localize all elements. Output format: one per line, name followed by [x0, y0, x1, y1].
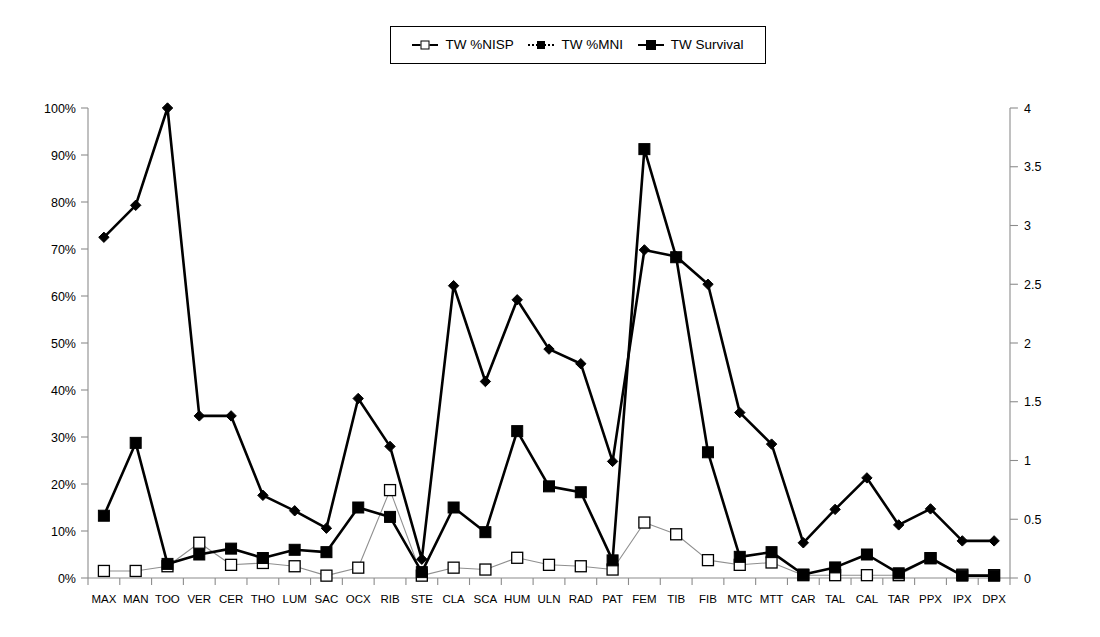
- data-point[interactable]: [130, 437, 141, 448]
- data-point[interactable]: [226, 411, 236, 421]
- category-label: RAD: [569, 593, 593, 605]
- data-point[interactable]: [512, 426, 523, 437]
- category-label: MAN: [123, 593, 149, 605]
- data-point[interactable]: [671, 529, 682, 540]
- data-point[interactable]: [289, 544, 300, 555]
- category-label: LUM: [283, 593, 307, 605]
- left-axis-tick-label: 0%: [58, 572, 76, 586]
- data-point[interactable]: [480, 376, 490, 386]
- data-point[interactable]: [226, 543, 237, 554]
- category-label: ULN: [537, 593, 560, 605]
- data-point[interactable]: [321, 547, 332, 558]
- data-point[interactable]: [290, 506, 300, 516]
- category-label: CAL: [856, 593, 879, 605]
- category-labels: MAXMANTOOVERCERTHOLUMSACOCXRIBSTECLASCAH…: [91, 593, 1006, 605]
- category-label: FEM: [632, 593, 656, 605]
- category-label: TIB: [667, 593, 685, 605]
- data-point[interactable]: [448, 281, 458, 291]
- right-axis: 00.511.522.533.54: [1010, 102, 1041, 586]
- data-point[interactable]: [353, 562, 364, 573]
- category-label: HUM: [504, 593, 530, 605]
- data-point[interactable]: [766, 547, 777, 558]
- data-point[interactable]: [162, 558, 173, 569]
- data-point[interactable]: [639, 517, 650, 528]
- data-point[interactable]: [607, 456, 617, 466]
- data-point[interactable]: [194, 411, 204, 421]
- left-axis-tick-label: 20%: [51, 478, 76, 492]
- data-point[interactable]: [98, 565, 109, 576]
- data-point[interactable]: [607, 555, 618, 566]
- data-point[interactable]: [734, 551, 745, 562]
- data-point[interactable]: [544, 559, 555, 570]
- left-axis-tick-label: 80%: [51, 196, 76, 210]
- data-point[interactable]: [194, 537, 205, 548]
- category-label: SCA: [474, 593, 498, 605]
- data-point[interactable]: [162, 103, 172, 113]
- data-point[interactable]: [702, 555, 713, 566]
- category-label: PAT: [602, 593, 623, 605]
- data-point[interactable]: [576, 359, 586, 369]
- data-point[interactable]: [957, 570, 968, 581]
- data-point[interactable]: [575, 487, 586, 498]
- left-axis-tick-label: 10%: [51, 525, 76, 539]
- data-point[interactable]: [353, 502, 364, 513]
- data-point[interactable]: [448, 562, 459, 573]
- data-point[interactable]: [798, 569, 809, 580]
- category-label: IPX: [953, 593, 972, 605]
- category-label: MTC: [727, 593, 752, 605]
- data-point[interactable]: [194, 549, 205, 560]
- left-axis-tick-label: 50%: [51, 337, 76, 351]
- data-point[interactable]: [766, 557, 777, 568]
- category-label: CAR: [791, 593, 815, 605]
- data-point[interactable]: [702, 447, 713, 458]
- category-label: FIB: [699, 593, 717, 605]
- data-point[interactable]: [544, 481, 555, 492]
- left-axis-tick-label: 40%: [51, 384, 76, 398]
- category-label: TAR: [888, 593, 910, 605]
- data-point[interactable]: [321, 523, 331, 533]
- left-axis-tick-label: 70%: [51, 243, 76, 257]
- data-point[interactable]: [989, 536, 999, 546]
- left-axis: 0%10%20%30%40%50%60%70%80%90%100%: [44, 102, 88, 586]
- right-axis-tick-label: 1.5: [1024, 395, 1041, 409]
- category-label: CER: [219, 593, 243, 605]
- data-point[interactable]: [321, 570, 332, 581]
- data-point[interactable]: [385, 511, 396, 522]
- series-tw-survival: [98, 144, 999, 582]
- right-axis-tick-label: 1: [1024, 454, 1031, 468]
- data-point[interactable]: [130, 565, 141, 576]
- category-label: SAC: [315, 593, 339, 605]
- category-label: OCX: [346, 593, 371, 605]
- left-axis-tick-label: 60%: [51, 290, 76, 304]
- left-axis-tick-label: 30%: [51, 431, 76, 445]
- chart-container: TW %NISP TW %MNI TW Survival 0%10%20%30%…: [0, 0, 1100, 637]
- data-point[interactable]: [925, 553, 936, 564]
- data-point[interactable]: [289, 561, 300, 572]
- data-point[interactable]: [575, 561, 586, 572]
- right-axis-tick-label: 2: [1024, 337, 1031, 351]
- data-point[interactable]: [226, 559, 237, 570]
- data-point[interactable]: [480, 564, 491, 575]
- right-axis-tick-label: 2.5: [1024, 278, 1041, 292]
- right-axis-tick-label: 4: [1024, 102, 1031, 116]
- category-label: TOO: [155, 593, 180, 605]
- data-point[interactable]: [893, 568, 904, 579]
- data-point[interactable]: [639, 245, 649, 255]
- data-point[interactable]: [416, 567, 427, 578]
- data-point[interactable]: [448, 502, 459, 513]
- category-label: THO: [251, 593, 275, 605]
- data-point[interactable]: [98, 510, 109, 521]
- category-label: CLA: [442, 593, 465, 605]
- data-point[interactable]: [861, 570, 872, 581]
- data-point[interactable]: [480, 527, 491, 538]
- data-point[interactable]: [639, 144, 650, 155]
- data-point[interactable]: [989, 570, 1000, 581]
- data-point[interactable]: [512, 552, 523, 563]
- data-point[interactable]: [385, 485, 396, 496]
- data-point[interactable]: [830, 562, 841, 573]
- category-label: VER: [187, 593, 211, 605]
- category-label: DPX: [982, 593, 1006, 605]
- data-point[interactable]: [861, 549, 872, 560]
- data-point[interactable]: [257, 553, 268, 564]
- data-point[interactable]: [258, 490, 268, 500]
